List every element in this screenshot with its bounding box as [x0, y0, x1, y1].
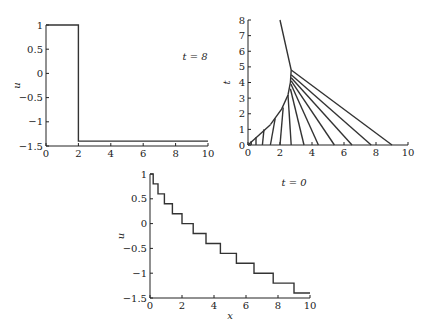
characteristic-line [291, 78, 352, 145]
characteristic-line [288, 95, 291, 145]
plot-t0: 024681010.50−0.5−1−1.5uxt = 0 [115, 169, 316, 322]
y-tick-label: 8 [239, 15, 245, 26]
y-tick-label: 0 [239, 140, 245, 151]
y-tick-label: −0.5 [19, 92, 43, 103]
y-tick-label: 7 [239, 30, 245, 41]
y-tick-label: 6 [239, 46, 245, 57]
x-tick-label: 4 [211, 300, 217, 311]
y-tick-label: 0.5 [131, 193, 147, 204]
x-tick-label: 0 [147, 300, 153, 311]
y-axis-label: t [221, 80, 232, 85]
figure: 024681010.50−0.5−1−1.5ut = 8 02468100123… [0, 0, 424, 325]
y-tick-label: 1 [141, 169, 147, 180]
y-tick-label: 1 [239, 124, 245, 135]
y-tick-label: −1 [28, 116, 43, 127]
y-tick-label: 0 [37, 68, 43, 79]
annotation: t = 0 [281, 177, 307, 188]
x-tick-label: 6 [243, 300, 249, 311]
x-tick-label: 6 [140, 148, 146, 159]
y-tick-label: −1.5 [19, 141, 43, 152]
shock-curve [270, 20, 291, 125]
annotation: t = 8 [182, 51, 207, 62]
x-tick-label: 6 [341, 147, 347, 158]
characteristic-line [291, 81, 334, 145]
plot-characteristics: 0246810012345678t [221, 15, 414, 159]
y-tick-label: 1 [37, 20, 43, 31]
step-profile [150, 174, 310, 293]
x-tick-label: 10 [402, 147, 415, 158]
solution-line [46, 25, 208, 141]
x-tick-label: 0 [43, 148, 49, 159]
y-tick-label: 0 [141, 218, 147, 229]
x-tick-label: 4 [108, 148, 114, 159]
y-tick-label: −1 [132, 268, 147, 279]
characteristic-line [280, 108, 283, 146]
y-tick-label: −0.5 [123, 243, 147, 254]
y-tick-label: 2 [239, 108, 245, 119]
x-tick-label: 8 [275, 300, 281, 311]
x-tick-label: 8 [172, 148, 178, 159]
x-tick-label: 4 [309, 147, 315, 158]
x-tick-label: 2 [75, 148, 81, 159]
x-tick-label: 10 [304, 300, 317, 311]
y-tick-label: 0.5 [27, 44, 43, 55]
y-axis-label: u [11, 82, 22, 88]
x-tick-label: 2 [179, 300, 185, 311]
y-tick-label: 5 [239, 61, 245, 72]
plot-t8: 024681010.50−0.5−1−1.5ut = 8 [11, 20, 214, 160]
x-tick-label: 8 [373, 147, 379, 158]
x-axis-label: x [227, 310, 233, 321]
y-axis-label: u [115, 233, 126, 239]
x-tick-label: 2 [277, 147, 283, 158]
y-tick-label: −1.5 [123, 293, 147, 304]
x-tick-label: 0 [245, 147, 251, 158]
y-tick-label: 3 [239, 93, 245, 104]
x-tick-label: 10 [202, 148, 215, 159]
y-tick-label: 4 [239, 77, 245, 88]
